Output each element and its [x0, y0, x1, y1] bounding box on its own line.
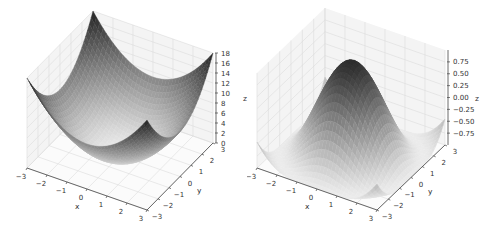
z-tick-label: −0.25: [453, 106, 474, 114]
y-tick-label: −1: [405, 191, 415, 199]
paraboloid-surface-chart: −3−2−10123−3−2−10123024681012141618xyz: [0, 0, 248, 238]
x-tick-label: 3: [369, 215, 373, 223]
z-tick-label: 8: [221, 100, 225, 108]
cosine-dome-surface-chart: −3−2−10123−3−2−101230.750.500.250.00−0.2…: [247, 0, 495, 238]
x-tick-label: 0: [309, 194, 313, 202]
y-tick-label: 2: [441, 159, 445, 167]
x-tick-label: 2: [119, 208, 123, 216]
z-tick-label: 0.75: [453, 58, 469, 66]
z-axis-label: z: [475, 94, 479, 103]
x-tick-label: 3: [139, 215, 143, 223]
z-tick-label: 2: [221, 130, 225, 138]
y-tick-label: −3: [152, 213, 162, 221]
y-tick-label: 2: [210, 157, 214, 165]
z-tick-label: 0: [221, 140, 225, 148]
z-tick-label: 12: [221, 80, 230, 88]
x-tick-label: 2: [349, 208, 353, 216]
x-tick-label: −3: [247, 173, 256, 181]
y-axis-label: y: [197, 186, 202, 195]
y-tick-label: 1: [199, 168, 203, 176]
z-tick-label: −0.50: [453, 118, 474, 126]
x-tick-label: −3: [16, 173, 26, 181]
z-tick-label: 6: [221, 110, 226, 118]
z-tick-label: 14: [221, 70, 230, 78]
z-tick-label: 0.50: [453, 70, 469, 78]
right-surface-plot: −3−2−10123−3−2−101230.750.500.250.00−0.2…: [247, 0, 495, 238]
z-tick-label: 16: [221, 60, 230, 68]
z-tick-label: 4: [221, 120, 226, 128]
x-axis-label: x: [75, 202, 80, 211]
x-axis-label: x: [305, 202, 310, 211]
x-tick-label: 0: [79, 194, 83, 202]
z-tick-label: 0.00: [453, 94, 469, 102]
y-tick-label: 1: [430, 170, 434, 178]
x-tick-label: −2: [266, 180, 276, 188]
left-surface-plot: −3−2−10123−3−2−10123024681012141618xyz: [0, 0, 248, 238]
x-tick-label: −2: [36, 180, 46, 188]
y-tick-label: 3: [453, 148, 457, 156]
y-tick-label: −2: [163, 202, 173, 210]
z-tick-label: −0.75: [453, 130, 474, 138]
z-tick-label: 10: [221, 90, 230, 98]
x-tick-label: −1: [56, 187, 66, 195]
y-tick-label: 0: [419, 181, 423, 189]
y-tick-label: −2: [393, 202, 403, 210]
x-tick-label: 1: [99, 201, 103, 209]
y-axis-label: y: [428, 187, 433, 196]
x-tick-label: 1: [329, 201, 333, 209]
y-tick-label: −1: [174, 191, 184, 199]
y-tick-label: 0: [188, 180, 192, 188]
z-tick-label: 18: [221, 50, 230, 58]
x-tick-label: −1: [286, 187, 296, 195]
y-tick-label: −3: [382, 213, 392, 221]
z-tick-label: 0.25: [453, 82, 469, 90]
